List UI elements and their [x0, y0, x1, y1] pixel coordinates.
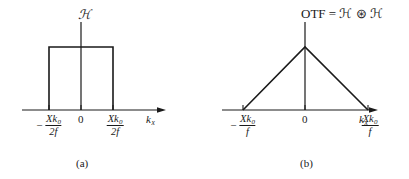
caption-a: (a): [76, 158, 88, 169]
tick-label-b-left-fraction: Xk0 f: [239, 114, 256, 137]
panel-a-plot: [0, 0, 204, 179]
x-ticks-a: [49, 105, 113, 110]
tick-label-a-left-numerator-text: Xk: [46, 113, 57, 124]
tick-label-b-right-denominator: f: [362, 125, 379, 137]
tick-label-b-left-numerator: Xk0: [239, 114, 256, 125]
x-axis-a: [22, 107, 166, 113]
tick-label-a-left-sign: −: [36, 119, 42, 131]
tick-label-b-right-fraction: Xk0 f: [362, 114, 379, 137]
tick-label-b-right-numerator-subscript: 0: [374, 118, 378, 126]
tick-label-b-right-numerator: Xk0: [362, 114, 379, 125]
panel-b: OTF = ℋ ⊛ ℋ kx 0 − Xk0 f Xk0 f (b): [204, 0, 408, 179]
x-axis-label-a-subscript: x: [151, 118, 154, 127]
tick-label-a-left-denominator: 2f: [45, 125, 62, 137]
x-axis-label-a: kx: [146, 114, 154, 125]
tick-label-b-right-numerator-text: Xk: [363, 113, 374, 124]
tick-label-b-left: − Xk0 f: [230, 114, 255, 137]
origin-label-b: 0: [302, 114, 308, 125]
curve-label-b: OTF = ℋ ⊛ ℋ: [301, 7, 383, 20]
tick-label-a-right-numerator-text: Xk: [108, 113, 119, 124]
tick-label-b-left-sign: −: [230, 119, 236, 131]
panel-a: ℋ kx 0 − Xk0 2f Xk0 2f (a): [0, 0, 204, 179]
x-ticks-b: [243, 105, 368, 110]
tick-label-a-left-fraction: Xk0 2f: [45, 114, 62, 137]
curve-label-a: ℋ: [78, 8, 91, 21]
tick-label-b-left-numerator-subscript: 0: [251, 118, 255, 126]
origin-label-a: 0: [78, 114, 84, 125]
tick-label-a-right-numerator: Xk0: [107, 114, 124, 125]
tick-label-b-left-denominator: f: [239, 125, 256, 137]
tick-label-a-right-numerator-subscript: 0: [119, 118, 123, 126]
tick-label-a-left: − Xk0 2f: [36, 114, 61, 137]
tick-label-a-right-denominator: 2f: [107, 125, 124, 137]
figure-container: ℋ kx 0 − Xk0 2f Xk0 2f (a): [0, 0, 409, 179]
tick-label-a-right-fraction: Xk0 2f: [107, 114, 124, 137]
tick-label-a-left-numerator-subscript: 0: [57, 118, 61, 126]
caption-b: (b): [300, 158, 313, 169]
tick-label-a-left-numerator: Xk0: [45, 114, 62, 125]
panel-b-plot: [204, 0, 408, 179]
tick-label-b-right: Xk0 f: [362, 114, 379, 137]
tick-label-b-left-numerator-text: Xk: [240, 113, 251, 124]
tick-label-a-right: Xk0 2f: [107, 114, 124, 137]
